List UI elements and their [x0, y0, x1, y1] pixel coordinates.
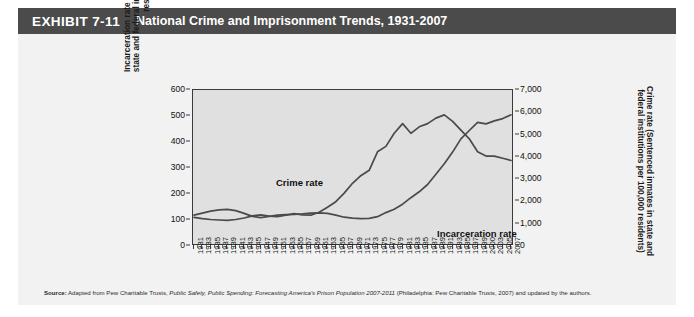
x-tick-mark [435, 245, 436, 249]
x-tick-mark [193, 245, 194, 249]
x-tick-mark [393, 245, 394, 249]
y-tick-left: 600 [171, 84, 185, 94]
x-tick-mark-minor [264, 245, 265, 248]
y-tick-right: 1,000 [520, 218, 542, 228]
x-tick-mark-minor [497, 245, 498, 248]
x-tick-mark [310, 245, 311, 249]
series-label-crime-rate: Crime rate [276, 177, 323, 188]
y-tick-right: 4,000 [520, 151, 542, 161]
exhibit-header-bar: EXHIBIT 7-11 National Crime and Imprison… [18, 8, 676, 34]
x-tick-label: 2007 [513, 237, 522, 254]
x-tick-mark [427, 245, 428, 249]
x-tick-mark [260, 245, 261, 249]
x-tick-mark [410, 245, 411, 249]
source-prefix: Source: [44, 289, 67, 296]
x-tick-mark-minor [289, 245, 290, 248]
x-tick-mark [210, 245, 211, 249]
x-tick-mark-minor [381, 245, 382, 248]
x-tick-mark [477, 245, 478, 249]
x-tick-mark-minor [389, 245, 390, 248]
source-text-1: Adapted from Pew Charitable Trusts, [67, 289, 170, 296]
x-tick-mark-minor [506, 245, 507, 248]
x-tick-mark [402, 245, 403, 249]
y-tick-left: 500 [171, 110, 185, 120]
x-tick-mark-minor [197, 245, 198, 248]
y-tick-mark-right [515, 178, 519, 179]
x-tick-mark-minor [456, 245, 457, 248]
x-tick-mark [226, 245, 227, 249]
x-tick-mark [201, 245, 202, 249]
x-tick-mark-minor [214, 245, 215, 248]
y-tick-left: 400 [171, 136, 185, 146]
x-tick-mark [352, 245, 353, 249]
x-axis-tick-labels: 1931193319351937193919411943194519471949… [192, 248, 513, 282]
x-tick-mark-minor [247, 245, 248, 248]
x-tick-mark-minor [306, 245, 307, 248]
x-tick-mark-minor [322, 245, 323, 248]
exhibit-title: National Crime and Imprisonment Trends, … [136, 14, 447, 28]
plot-area [192, 89, 513, 245]
x-tick-mark-minor [414, 245, 415, 248]
x-tick-mark [360, 245, 361, 249]
x-tick-mark-minor [314, 245, 315, 248]
x-tick-mark-minor [272, 245, 273, 248]
y-tick-mark-right [515, 155, 519, 156]
x-tick-mark [326, 245, 327, 249]
x-tick-mark-minor [356, 245, 357, 248]
y-tick-mark-right [515, 133, 519, 134]
x-tick-mark [418, 245, 419, 249]
x-tick-mark-minor [239, 245, 240, 248]
exhibit-number-label: EXHIBIT 7-11 [32, 14, 120, 29]
x-tick-mark-minor [331, 245, 332, 248]
x-tick-mark [493, 245, 494, 249]
y-axis-left-title: Incarceration rate (Sentenced inmates in… [123, 0, 141, 82]
y-tick-mark-left [186, 193, 190, 194]
x-tick-mark-minor [206, 245, 207, 248]
x-tick-mark [510, 245, 511, 249]
x-tick-mark-minor [347, 245, 348, 248]
y-tick-mark-right [515, 222, 519, 223]
y-tick-mark-right [515, 89, 519, 90]
x-tick-mark-minor [364, 245, 365, 248]
x-tick-mark [335, 245, 336, 249]
x-tick-mark [276, 245, 277, 249]
x-tick-mark-minor [281, 245, 282, 248]
x-tick-mark [243, 245, 244, 249]
x-tick-mark-minor [339, 245, 340, 248]
y-tick-left: 300 [171, 162, 185, 172]
y-tick-mark-left [186, 167, 190, 168]
y-tick-right: 6,000 [520, 106, 542, 116]
source-publication-title: Public Safety, Public Spending: Forecast… [169, 289, 395, 296]
x-tick-mark-minor [439, 245, 440, 248]
x-tick-mark-minor [372, 245, 373, 248]
y-tick-left: 100 [171, 214, 185, 224]
x-tick-mark [218, 245, 219, 249]
x-tick-mark [318, 245, 319, 249]
x-tick-mark-minor [406, 245, 407, 248]
x-tick-mark [343, 245, 344, 249]
x-tick-mark [293, 245, 294, 249]
y-tick-right: 2,000 [520, 195, 542, 205]
y-tick-right: 5,000 [520, 129, 542, 139]
x-tick-mark-minor [397, 245, 398, 248]
series-line-incarceration-rate [194, 115, 511, 219]
y-tick-left: 0 [180, 240, 185, 250]
x-tick-mark-minor [447, 245, 448, 248]
x-tick-mark [301, 245, 302, 249]
chart-lines [193, 90, 512, 244]
x-tick-mark [468, 245, 469, 249]
x-tick-mark [285, 245, 286, 249]
y-axis-right-title: Crime rate (Sentenced inmates in state a… [636, 80, 654, 262]
x-tick-mark-minor [231, 245, 232, 248]
y-tick-mark-right [515, 200, 519, 201]
y-tick-mark-left [186, 115, 190, 116]
y-tick-right: 3,000 [520, 173, 542, 183]
x-tick-mark [485, 245, 486, 249]
x-tick-mark [268, 245, 269, 249]
x-tick-mark [251, 245, 252, 249]
series-line-crime-rate [194, 115, 511, 220]
y-tick-right: 7,000 [520, 84, 542, 94]
x-tick-mark [460, 245, 461, 249]
x-tick-mark-minor [481, 245, 482, 248]
x-tick-mark [452, 245, 453, 249]
